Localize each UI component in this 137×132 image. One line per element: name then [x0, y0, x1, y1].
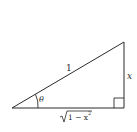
triangle-diagram: 1 x θ 1 − x 2	[0, 0, 137, 132]
angle-label: θ	[39, 95, 44, 104]
angle-arc	[36, 94, 39, 108]
triangle	[12, 42, 124, 108]
hypotenuse-label: 1	[66, 63, 72, 73]
opposite-label: x	[127, 71, 132, 81]
adjacent-exponent: 2	[88, 110, 91, 116]
adjacent-radicand: 1 − x	[68, 113, 89, 122]
right-angle-marker	[114, 98, 124, 108]
hypotenuse-line	[12, 42, 124, 108]
adjacent-label: 1 − x 2	[60, 110, 92, 122]
